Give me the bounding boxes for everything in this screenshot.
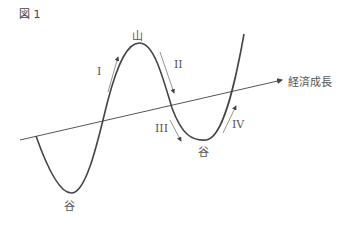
phase-1-label: I: [97, 65, 101, 78]
business-cycle-curve: [36, 34, 244, 193]
phase-3-label: III: [155, 122, 168, 135]
growth-axis-label: 経済成長: [288, 73, 332, 89]
trough-label-left: 谷: [64, 197, 75, 213]
business-cycle-diagram: [0, 0, 350, 226]
trough-label-right: 谷: [198, 143, 209, 159]
growth-trend-line: [20, 80, 282, 140]
peak-label: 山: [132, 27, 143, 43]
phase-2-arrow: [160, 52, 174, 93]
phase-2-label: II: [174, 58, 183, 71]
phase-4-label: IV: [232, 118, 244, 131]
